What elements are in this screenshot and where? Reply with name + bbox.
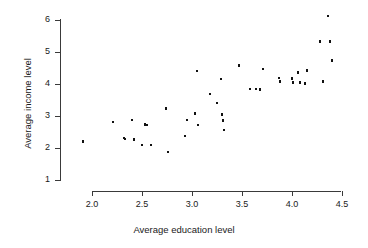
x-axis-title: Average education level — [0, 224, 368, 235]
data-point — [322, 80, 325, 83]
data-point — [329, 40, 332, 43]
data-point — [279, 80, 282, 83]
data-point — [216, 102, 219, 105]
data-point — [327, 15, 330, 18]
data-point — [306, 69, 309, 72]
data-point — [209, 93, 212, 96]
data-point — [222, 119, 225, 122]
y-axis-title: Average income level — [22, 24, 33, 184]
data-point — [292, 81, 295, 84]
data-point — [220, 78, 223, 81]
data-point — [291, 77, 294, 80]
data-point — [259, 88, 262, 91]
data-point — [221, 113, 224, 116]
data-point — [165, 107, 168, 110]
data-point — [297, 71, 300, 74]
data-point — [223, 129, 226, 132]
data-point — [186, 119, 189, 122]
data-point — [131, 119, 134, 122]
data-point — [184, 135, 187, 138]
data-point — [194, 112, 197, 115]
data-point — [124, 138, 127, 141]
data-point — [146, 124, 149, 127]
data-point — [141, 144, 144, 147]
data-point — [112, 121, 115, 124]
data-point — [82, 140, 85, 143]
data-point — [133, 138, 136, 141]
scatter-plot-figure: 123456 2.02.53.03.54.04.5 Average educat… — [0, 0, 368, 248]
data-point — [197, 124, 200, 127]
data-point — [262, 68, 265, 71]
data-point — [238, 64, 241, 67]
data-point — [278, 77, 281, 80]
data-point — [255, 88, 258, 91]
data-point — [167, 151, 170, 154]
data-point — [150, 144, 153, 147]
data-point — [304, 82, 307, 85]
data-point — [319, 40, 322, 43]
data-point — [299, 81, 302, 84]
data-point — [331, 59, 334, 62]
data-point — [196, 70, 199, 73]
data-point — [249, 88, 252, 91]
plot-data-area — [0, 0, 368, 248]
